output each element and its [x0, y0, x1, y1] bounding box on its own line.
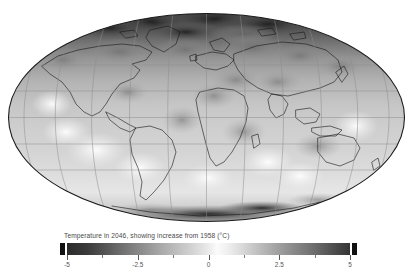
- colorbar-tick-minor: [102, 255, 103, 258]
- colorbar-endcap-high: [352, 243, 357, 255]
- colorbar-tick-major: [279, 255, 280, 260]
- colorbar-tick-label: -2.5: [132, 261, 143, 268]
- map-panel: [0, 0, 417, 230]
- colorbar-tick-major: [350, 255, 351, 260]
- colorbar-tick-minor: [244, 255, 245, 258]
- climate-map-figure: Temperature in 2046, showing increase fr…: [0, 0, 417, 279]
- colorbar-tick-major: [138, 255, 139, 260]
- colorbar-endcap-low: [60, 243, 65, 255]
- colorbar-area: Temperature in 2046, showing increase fr…: [0, 230, 417, 279]
- colorbar-title: Temperature in 2046, showing increase fr…: [64, 232, 364, 239]
- world-map: [0, 0, 417, 230]
- colorbar-tick-minor: [315, 255, 316, 258]
- colorbar-tick-label: 5: [348, 261, 352, 268]
- colorbar-tick-major: [209, 255, 210, 260]
- colorbar-tick-minor: [173, 255, 174, 258]
- colorbar-tick-label: 2.5: [275, 261, 284, 268]
- colorbar: -5 -2.5 0 2.5 5: [60, 243, 360, 255]
- colorbar-tick-major: [67, 255, 68, 260]
- colorbar-tick-label: -5: [64, 261, 70, 268]
- colorbar-tick-label: 0: [207, 261, 211, 268]
- colorbar-gradient: [67, 243, 350, 255]
